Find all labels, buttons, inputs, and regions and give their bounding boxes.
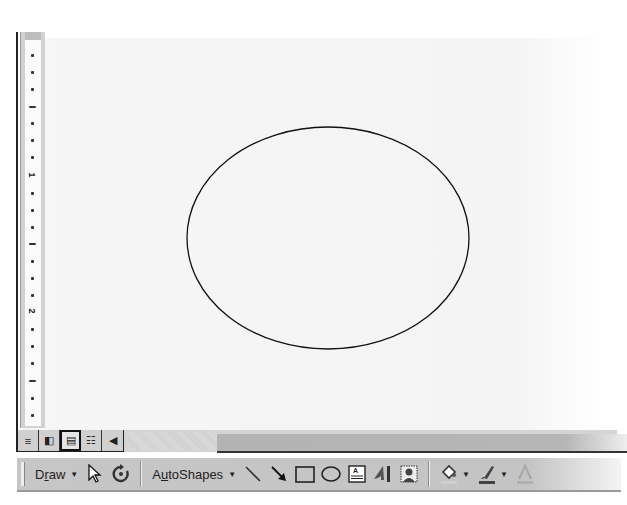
chevron-down-icon: ▼ (228, 470, 236, 479)
ruler-scale: 1 2 (25, 40, 41, 426)
ruler-tick (31, 328, 34, 331)
fill-color-button[interactable] (438, 463, 460, 485)
horizontal-scroll-thumb[interactable] (217, 434, 627, 453)
paintbrush-icon (477, 463, 497, 485)
ellipse-shape[interactable] (184, 124, 474, 358)
select-objects-button[interactable] (84, 463, 106, 485)
scroll-left-icon: ◀ (109, 434, 117, 447)
ruler-tick (31, 156, 34, 159)
print-layout-view-button[interactable]: ▤ (60, 430, 81, 451)
ellipse-icon (184, 124, 474, 354)
ruler-tick (31, 192, 34, 195)
draw-label-rest: aw (49, 467, 66, 482)
ruler-top-margin (25, 32, 41, 40)
autoshapes-label-rest: toShapes (168, 467, 223, 482)
web-layout-view-icon: ◧ (44, 434, 54, 447)
view-buttons: ≡ ◧ ▤ ☷ ◀ (17, 430, 124, 452)
arrow-button[interactable] (268, 463, 290, 485)
ruler-tick (29, 106, 36, 108)
pointer-arrow-icon (87, 464, 103, 484)
toolbar-separator (140, 461, 142, 487)
ruler-tick (31, 71, 34, 74)
toolbar-grip[interactable] (21, 462, 25, 486)
autoshapes-label: A (152, 467, 161, 482)
view-bar: ≡ ◧ ▤ ☷ ◀ (17, 430, 617, 452)
vertical-ruler[interactable]: 1 2 (20, 32, 45, 428)
autoshapes-label-accel: u (161, 467, 168, 482)
rectangle-icon (294, 464, 316, 484)
free-rotate-button[interactable] (110, 463, 132, 485)
ruler-tick (31, 277, 34, 280)
ruler-tick (31, 414, 34, 417)
rotate-icon (111, 464, 131, 484)
svg-text:A: A (353, 467, 358, 474)
web-layout-view-button[interactable]: ◧ (39, 430, 60, 451)
draw-menu-button[interactable]: Draw ▼ (31, 461, 82, 487)
ruler-tick (31, 226, 34, 229)
autoshapes-menu-button[interactable]: AutoShapes ▼ (148, 461, 240, 487)
ruler-tick (31, 209, 34, 212)
ruler-tick (31, 54, 34, 57)
print-layout-view-icon: ▤ (66, 434, 76, 447)
chevron-down-icon: ▼ (70, 470, 78, 479)
font-color-icon (515, 463, 535, 485)
oval-button[interactable] (320, 463, 342, 485)
line-color-button[interactable] (476, 463, 498, 485)
ruler-tick (31, 362, 34, 365)
paint-bucket-icon (439, 463, 459, 485)
ruler-tick (31, 260, 34, 263)
ruler-label: 1 (27, 170, 37, 180)
ruler-tick (31, 88, 34, 91)
drawing-toolbar: Draw ▼ AutoShapes ▼ (17, 458, 621, 492)
normal-view-icon: ≡ (25, 435, 31, 447)
outline-view-icon: ☷ (86, 434, 96, 447)
horizontal-scroll-track[interactable] (127, 432, 217, 450)
ruler-tick (31, 345, 34, 348)
ruler-tick (29, 380, 36, 382)
rectangle-button[interactable] (294, 463, 316, 485)
ruler-label: 2 (27, 306, 37, 316)
line-color-dropdown[interactable]: ▼ (500, 470, 508, 479)
line-button[interactable] (242, 463, 264, 485)
line-icon (243, 464, 263, 484)
oval-icon (320, 464, 342, 484)
wordart-button[interactable] (372, 463, 394, 485)
font-color-button[interactable] (514, 463, 536, 485)
ruler-tick (29, 243, 36, 245)
scroll-left-button[interactable]: ◀ (102, 430, 123, 451)
fill-color-dropdown[interactable]: ▼ (462, 470, 470, 479)
toolbar-separator (428, 461, 430, 487)
arrow-icon (269, 464, 289, 484)
wordart-icon (372, 463, 394, 485)
ruler-tick (31, 294, 34, 297)
text-box-icon: A (347, 464, 367, 484)
window-left-edge (16, 32, 18, 452)
normal-view-button[interactable]: ≡ (18, 430, 39, 451)
ruler-tick (31, 397, 34, 400)
insert-clip-art-button[interactable] (398, 463, 420, 485)
text-box-button[interactable]: A (346, 463, 368, 485)
ruler-tick (31, 139, 34, 142)
clip-art-icon (399, 464, 419, 484)
draw-label: D (35, 467, 44, 482)
ruler-tick (31, 122, 34, 125)
outline-view-button[interactable]: ☷ (81, 430, 102, 451)
